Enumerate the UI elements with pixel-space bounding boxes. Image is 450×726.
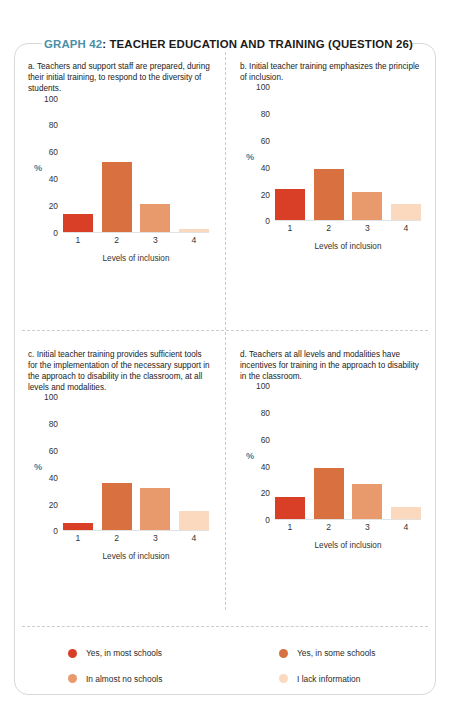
x-tick-label: 1 — [275, 223, 305, 237]
x-tick-label: 2 — [102, 235, 132, 249]
x-tick-label: 3 — [140, 533, 170, 547]
x-axis-line-c — [63, 530, 209, 531]
legend-item: In almost no schools — [14, 670, 225, 689]
y-tick-label: 40 — [261, 163, 270, 173]
panel-b: b. Initial teacher training emphasizes t… — [226, 43, 438, 331]
bar-slot — [352, 386, 382, 520]
x-tick-label: 4 — [391, 223, 421, 237]
x-axis-title-a: Levels of inclusion — [63, 254, 209, 263]
x-tick-label: 3 — [140, 235, 170, 249]
bar-d-2 — [314, 468, 344, 520]
x-tick-label: 4 — [179, 235, 209, 249]
title-text: TEACHER EDUCATION AND TRAINING (QUESTION… — [109, 38, 412, 50]
legend-label: I lack information — [297, 674, 360, 684]
y-tick-label: 40 — [261, 462, 270, 472]
y-tick-label: 80 — [261, 109, 270, 119]
panel-caption-d: d. Teachers at all levels and modalities… — [240, 349, 422, 383]
x-axis-title-b: Levels of inclusion — [275, 242, 421, 251]
legend-swatch-icon — [68, 674, 77, 683]
panel-caption-b: b. Initial teacher training emphasizes t… — [240, 61, 422, 83]
bar-b-3 — [352, 192, 382, 221]
bar-slot — [63, 397, 93, 531]
legend-divider — [22, 626, 428, 627]
x-axis-d: 1234 — [275, 522, 421, 536]
x-tick-label: 3 — [352, 522, 382, 536]
bar-slot — [314, 386, 344, 520]
x-axis-a: 1234 — [63, 235, 209, 249]
legend-swatch-icon — [279, 674, 288, 683]
y-axis-unit-label-c: % — [34, 462, 42, 472]
bar-slot — [63, 99, 93, 233]
bar-a-3 — [140, 204, 170, 232]
x-axis-line-a — [63, 232, 209, 233]
legend-item: Yes, in some schools — [225, 644, 436, 663]
bar-series-c — [63, 397, 209, 531]
graph-number: GRAPH 42 — [44, 38, 102, 50]
y-tick-label: 60 — [49, 147, 58, 157]
y-axis-unit-label-b: % — [246, 152, 254, 162]
legend-label: Yes, in most schools — [86, 648, 162, 658]
x-axis-b: 1234 — [275, 223, 421, 237]
y-tick-label: 0 — [53, 228, 58, 238]
bar-slot — [391, 87, 421, 221]
y-tick-label: 100 — [256, 381, 270, 391]
y-tick-label: 0 — [265, 515, 270, 525]
plot-area-b: 020406080100%1234Levels of inclusion — [244, 87, 424, 239]
bar-series-b — [275, 87, 421, 221]
bar-b-2 — [314, 169, 344, 221]
bar-slot — [352, 87, 382, 221]
x-tick-label: 4 — [391, 522, 421, 536]
graph-page: GRAPH 42: TEACHER EDUCATION AND TRAINING… — [0, 0, 450, 726]
bar-d-3 — [352, 484, 382, 520]
bar-slot — [102, 99, 132, 233]
page-title: GRAPH 42: TEACHER EDUCATION AND TRAINING… — [44, 34, 416, 54]
plot-area-d: 020406080100%1234Levels of inclusion — [244, 386, 424, 538]
bar-series-d — [275, 386, 421, 520]
panel-grid: a. Teachers and support staff are prepar… — [14, 43, 436, 618]
x-axis-line-d — [275, 519, 421, 520]
bar-slot — [140, 397, 170, 531]
y-tick-label: 80 — [49, 419, 58, 429]
bar-d-4 — [391, 507, 421, 520]
plot-area-c: 020406080100%1234Levels of inclusion — [32, 397, 212, 549]
y-tick-label: 40 — [49, 473, 58, 483]
legend-item: I lack information — [225, 670, 436, 689]
y-tick-label: 0 — [265, 216, 270, 226]
bar-slot — [140, 99, 170, 233]
y-tick-label: 100 — [44, 94, 58, 104]
bar-slot — [391, 386, 421, 520]
bar-b-4 — [391, 204, 421, 221]
y-tick-label: 20 — [261, 190, 270, 200]
x-tick-label: 2 — [314, 223, 344, 237]
y-tick-label: 100 — [256, 82, 270, 92]
bar-slot — [179, 397, 209, 531]
y-tick-label: 80 — [49, 120, 58, 130]
y-tick-label: 60 — [261, 435, 270, 445]
plot-area-a: 020406080100%1234Levels of inclusion — [32, 99, 212, 251]
legend-swatch-icon — [279, 649, 288, 658]
x-tick-label: 2 — [314, 522, 344, 536]
panel-c: c. Initial teacher training provides suf… — [14, 331, 226, 619]
bar-b-1 — [275, 189, 305, 221]
y-tick-label: 40 — [49, 174, 58, 184]
legend-item: Yes, in most schools — [14, 644, 225, 663]
panel-a: a. Teachers and support staff are prepar… — [14, 43, 226, 331]
bar-c-2 — [102, 483, 132, 531]
x-axis-c: 1234 — [63, 533, 209, 547]
x-tick-label: 3 — [352, 223, 382, 237]
bar-a-2 — [102, 162, 132, 233]
y-tick-label: 0 — [53, 526, 58, 536]
y-axis-unit-label-a: % — [34, 163, 42, 173]
bar-c-3 — [140, 488, 170, 531]
bar-series-a — [63, 99, 209, 233]
y-tick-label: 60 — [49, 446, 58, 456]
bar-d-1 — [275, 497, 305, 520]
panel-d: d. Teachers at all levels and modalities… — [226, 331, 438, 619]
x-tick-label: 1 — [63, 235, 93, 249]
legend-swatch-icon — [68, 649, 77, 658]
y-tick-label: 60 — [261, 136, 270, 146]
bar-a-1 — [63, 214, 93, 233]
y-tick-label: 100 — [44, 392, 58, 402]
legend-label: Yes, in some schools — [297, 648, 375, 658]
y-tick-label: 20 — [261, 488, 270, 498]
